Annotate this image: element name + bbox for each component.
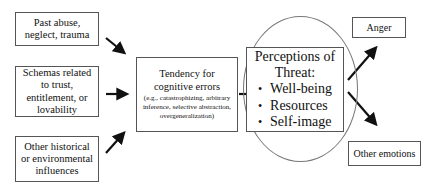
arrow-other-to-tendency xyxy=(106,135,122,153)
output-label: Other emotions xyxy=(354,148,416,160)
input-label: Other historical or environmental influe… xyxy=(19,141,95,177)
input-box-past-abuse: Past abuse, neglect, trauma xyxy=(15,12,99,46)
threat-item-wellbeing: Well-being xyxy=(258,81,332,97)
threat-item-self-image: Self-image xyxy=(258,114,332,130)
cognitive-errors-title-2: cognitive errors xyxy=(154,81,220,94)
output-label: Anger xyxy=(367,22,392,34)
input-label: Past abuse, neglect, trauma xyxy=(19,17,95,41)
arrow-past-to-tendency xyxy=(106,38,122,51)
output-box-other-emotions: Other emotions xyxy=(348,141,421,166)
output-box-anger: Anger xyxy=(352,17,406,38)
threat-title-2: Threat: xyxy=(275,65,315,81)
cognitive-errors-box: Tendency for cognitive errors (e.g., cat… xyxy=(136,57,238,132)
perceptions-of-threat-box: Perceptions of Threat: Well-being Resour… xyxy=(246,47,344,132)
cognitive-errors-title-1: Tendency for xyxy=(159,68,215,81)
cognitive-errors-examples: (e.g., catastrophizing, arbitrary infere… xyxy=(137,94,237,120)
input-label: Schemas related to trust, entitlement, o… xyxy=(19,67,95,115)
input-box-other-influences: Other historical or environmental influe… xyxy=(15,136,99,182)
threat-list: Well-being Resources Self-image xyxy=(258,81,332,129)
threat-title-1: Perceptions of xyxy=(255,49,335,65)
threat-item-resources: Resources xyxy=(258,98,332,114)
input-box-schemas: Schemas related to trust, entitlement, o… xyxy=(15,66,99,117)
